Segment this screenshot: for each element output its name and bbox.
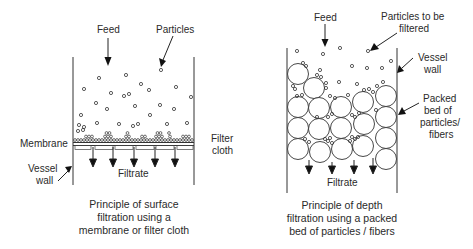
caption-line: bed of particles / fibers <box>276 225 408 238</box>
packed-bed-label-line1: Packed <box>423 93 456 105</box>
caption-line: Principle of surface <box>64 198 204 211</box>
feed-label: Feed <box>97 24 120 36</box>
vessel-wall-label-line2: wall <box>36 175 53 187</box>
feed-arrow-icon <box>105 38 112 66</box>
membrane-label: Membrane <box>20 138 68 150</box>
vessel-wall-label-line1: Vessel <box>418 52 447 64</box>
filtrate-label: Filtrate <box>327 177 358 189</box>
filter-cake <box>74 132 194 142</box>
particles-pointer-icon <box>370 33 397 51</box>
filtrate-label: Filtrate <box>118 168 149 180</box>
caption-line: filtration using a <box>64 211 204 224</box>
suspended-particles <box>76 68 192 132</box>
packed-bed-label-line2: bed of <box>424 105 452 117</box>
caption-line: membrane or filter cloth <box>64 224 204 237</box>
surface-filtration-caption: Principle of surface filtration using a … <box>64 198 204 237</box>
feed-label: Feed <box>314 12 337 24</box>
filter-cloth-label-line2: cloth <box>212 145 233 157</box>
packed-bed-label-line4: fibers <box>429 129 453 141</box>
particles-to-be-filtered-line2: filtered <box>399 23 429 35</box>
caption-line: Principle of depth <box>276 199 408 212</box>
depth-filtration-caption: Principle of depth filtration using a pa… <box>276 199 408 238</box>
vessel-wall-label-line2: wall <box>424 64 441 76</box>
filter-cloth-label-line1: Filter <box>211 133 233 145</box>
particles-pointer-icon <box>159 36 173 67</box>
vessel-wall-pointer-icon <box>397 58 413 73</box>
vessel-wall-pointer-icon <box>58 166 72 181</box>
feed-arrow-icon <box>322 24 329 47</box>
packed-bed-label-line3: particles/ <box>420 117 460 129</box>
vessel-wall-label-line1: Vessel <box>28 163 57 175</box>
packed-bed-pointer-icon <box>398 103 419 115</box>
filtrate-arrows-icon <box>90 147 179 167</box>
particles-to-be-filtered-line1: Particles to be <box>381 11 444 23</box>
caption-line: filtration using a packed <box>276 212 408 225</box>
packed-bed-spheres <box>288 64 397 170</box>
particles-label: Particles <box>156 24 194 36</box>
